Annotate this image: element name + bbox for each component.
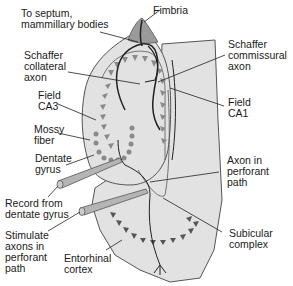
- fimbria: [128, 18, 158, 43]
- label-schaffer-collateral: Schaffer collateral axon: [24, 50, 66, 83]
- hippocampus-diagram: To septum, mammillary bodies Fimbria Sch…: [0, 0, 293, 286]
- label-subicular-complex: Subicular complex: [229, 228, 273, 250]
- label-fimbria: Fimbria: [153, 5, 188, 16]
- label-to-septum: To septum, mammillary bodies: [21, 8, 109, 30]
- label-mossy-fiber: Mossy fiber: [34, 124, 64, 146]
- label-dentate-gyrus: Dentate gyrus: [35, 153, 72, 175]
- label-record-dentate: Record from dentate gyrus: [5, 198, 69, 220]
- label-stimulate-axons: Stimulate axons in perforant path: [5, 230, 49, 274]
- label-entorhinal-cortex: Entorhinal cortex: [64, 253, 111, 275]
- label-schaffer-commissural: Schaffer commissural axon: [228, 39, 287, 72]
- label-axon-perforant: Axon in perforant path: [227, 155, 269, 188]
- label-field-ca3: Field CA3: [38, 90, 61, 112]
- label-field-ca1: Field CA1: [228, 97, 251, 119]
